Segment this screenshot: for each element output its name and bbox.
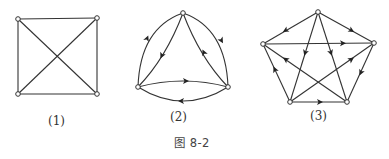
node-3-br [345, 100, 350, 105]
graph-2 [136, 11, 231, 104]
node-1-a [16, 17, 21, 22]
figure-caption: 图 8-2 [174, 134, 210, 150]
arrow-icon [143, 34, 151, 42]
node-2-top [181, 11, 186, 16]
node-1-b [95, 16, 100, 21]
edge-1-ab [18, 18, 97, 19]
node-1-d [16, 92, 21, 97]
node-3-right [372, 41, 377, 46]
arrow-icon [348, 26, 356, 34]
graph-1 [16, 16, 100, 97]
arrow-icon [301, 49, 308, 56]
edge-2-top-right-outer [183, 13, 228, 87]
graph-2-label: (2) [170, 110, 187, 124]
graph-3 [261, 10, 377, 105]
node-1-c [95, 92, 100, 97]
node-3-bl [288, 100, 293, 105]
edge-3-left-right [263, 43, 374, 44]
node-3-left [261, 42, 266, 47]
graph-1-label: (1) [48, 114, 65, 128]
arrow-icon [327, 49, 335, 57]
arrow-icon [357, 69, 365, 77]
graph-3-label: (3) [310, 109, 327, 123]
node-3-top [316, 10, 321, 15]
arrow-icon [281, 26, 289, 34]
node-2-right [226, 85, 231, 90]
arrow-icon [271, 65, 279, 73]
edge-2-left-top-outer [138, 13, 183, 87]
node-2-left [136, 85, 141, 90]
